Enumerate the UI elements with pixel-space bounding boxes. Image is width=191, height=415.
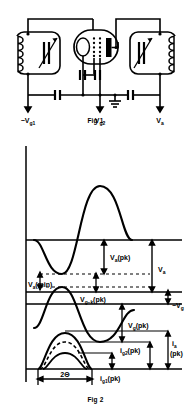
label-va-pk: Va(pk) bbox=[110, 254, 130, 263]
ig2-pk-dimension bbox=[148, 342, 153, 369]
anode-node bbox=[115, 46, 118, 49]
cathode-rail-node bbox=[81, 93, 84, 96]
output-tank-inductor bbox=[169, 36, 182, 72]
anode-arrow-head bbox=[157, 107, 163, 112]
label-ig2-pk: ig2(pk) bbox=[120, 347, 140, 356]
va-pk-dimension bbox=[101, 240, 106, 274]
anode-current-pulse bbox=[38, 333, 92, 369]
neg-vg-dimension bbox=[166, 290, 171, 304]
waveform-chart: Va(pk) Va Va(min) Vg−k(pk) −Vg bbox=[0, 132, 191, 415]
cathode-symbol bbox=[77, 38, 90, 56]
label-vg-pk: Vg(pk) bbox=[128, 322, 149, 331]
circuit-schematic: −Vg1 Vg2 Va bbox=[0, 0, 191, 132]
output-node-top bbox=[158, 32, 161, 35]
figure-2-caption: Fig 2 bbox=[0, 396, 191, 403]
figure-2-waveforms: Va(pk) Va Va(min) Vg−k(pk) −Vg bbox=[0, 132, 191, 415]
label-neg-vg: −Vg bbox=[172, 302, 184, 311]
output-tuning-capacitor bbox=[134, 38, 152, 68]
label-ia-pk-suffix: (pk) bbox=[170, 350, 183, 358]
input-node-top bbox=[26, 32, 29, 35]
ig1-pk-dimension bbox=[110, 353, 115, 369]
figure-1-circuit: −Vg1 Vg2 Va bbox=[0, 0, 191, 132]
anode-blocking-capacitor bbox=[128, 90, 133, 100]
ground-node bbox=[114, 94, 117, 97]
vacuum-tube bbox=[74, 30, 118, 64]
grid2-arrow-head bbox=[97, 107, 103, 112]
label-ig1-pk: ig1(pk) bbox=[100, 375, 120, 384]
va-dimension bbox=[149, 240, 154, 292]
label-ia-pk: ia bbox=[172, 340, 177, 349]
grid1-arrow-head bbox=[25, 107, 31, 112]
label-va: Va bbox=[158, 266, 166, 275]
screen-grid-symbol bbox=[99, 37, 101, 57]
vg-k-pk-dimension bbox=[94, 273, 99, 292]
input-tank-inductor bbox=[12, 36, 23, 72]
label-two-theta: 2Θ bbox=[60, 371, 70, 378]
grid-blocking-capacitor bbox=[55, 90, 60, 100]
anode-plate-symbol bbox=[106, 38, 112, 57]
control-grid-symbol bbox=[93, 37, 95, 57]
vg-pk-dimension bbox=[120, 304, 125, 342]
ground-symbol bbox=[109, 95, 121, 107]
figure-1-caption: Fig 1 bbox=[0, 117, 191, 124]
input-tuning-capacitor bbox=[39, 38, 57, 68]
